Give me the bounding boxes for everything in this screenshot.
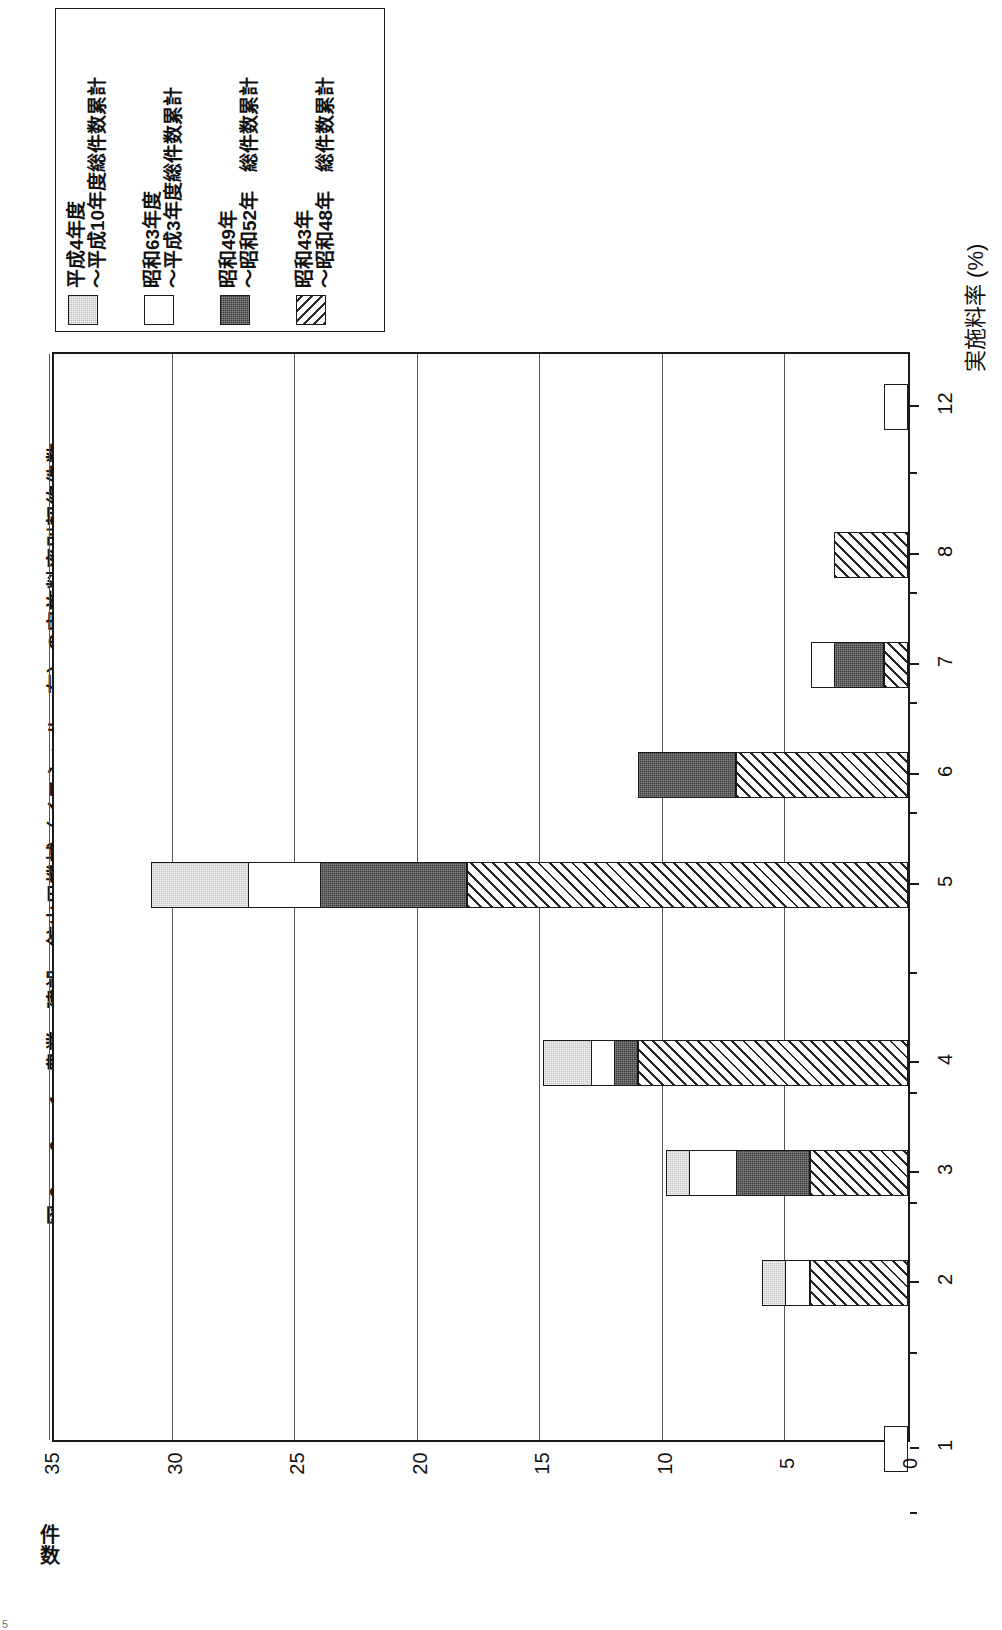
legend-item: 平成4年度 ～平成10年度総件数累計 xyxy=(66,23,140,325)
category-tick xyxy=(910,883,919,885)
category-minor-tick xyxy=(910,1512,917,1514)
bar-group-4 xyxy=(545,1040,908,1086)
value-axis-tick-label: 15 xyxy=(531,1443,554,1485)
value-axis-tick-label: 5 xyxy=(776,1443,799,1485)
plot-area xyxy=(52,352,910,1442)
bar-segment-white xyxy=(591,1040,616,1086)
hatch-swatch xyxy=(296,295,326,325)
bar-group-12 xyxy=(884,384,909,430)
bar-group-3 xyxy=(667,1150,908,1196)
bar-segment-dark xyxy=(834,642,883,688)
page-folio: 5 xyxy=(2,1618,8,1630)
bar-segment-gray xyxy=(151,862,249,908)
bar-group-6 xyxy=(640,752,908,798)
gridline xyxy=(49,354,50,1440)
bar-segment-gray xyxy=(543,1040,592,1086)
category-minor-tick xyxy=(910,1202,917,1204)
bar-segment-white xyxy=(884,384,909,430)
category-tick xyxy=(910,1061,919,1063)
category-axis-tick-label: 1 xyxy=(934,1429,957,1463)
legend-item-label: 平成4年度 ～平成10年度総件数累計 xyxy=(66,77,109,288)
chart-legend: 平成4年度 ～平成10年度総件数累計 昭和63年度 ～平成3年度総件数累計 昭和… xyxy=(55,8,385,332)
value-axis-tick-label: 20 xyxy=(408,1443,431,1485)
category-minor-tick xyxy=(910,1092,917,1094)
bar-segment-white xyxy=(248,862,322,908)
category-tick xyxy=(910,663,919,665)
category-axis-tick-label: 7 xyxy=(934,645,957,679)
x-axis-title: 実施料率 (%) xyxy=(957,244,989,372)
bar-segment-gray xyxy=(666,1150,691,1196)
y-axis-title: 件 数 xyxy=(40,1525,66,1567)
category-minor-tick xyxy=(910,472,917,474)
value-axis-tick-label: 35 xyxy=(41,1443,64,1485)
category-axis-tick-label: 5 xyxy=(934,865,957,899)
legend-item-label: 昭和49年 ～昭和52年 総件数累計 xyxy=(218,77,261,288)
bar-segment-hatch xyxy=(884,642,909,688)
legend-item-label: 昭和43年 ～昭和48年 総件数累計 xyxy=(294,77,337,288)
bar-segment-white xyxy=(689,1150,738,1196)
value-axis-tick-label: 30 xyxy=(163,1443,186,1485)
gray-swatch xyxy=(68,295,98,325)
value-axis-tick-label: 0 xyxy=(899,1443,922,1485)
legend-item: 昭和49年 ～昭和52年 総件数累計 xyxy=(218,23,292,325)
dark-swatch xyxy=(220,295,250,325)
category-minor-tick xyxy=(910,702,917,704)
category-tick xyxy=(910,1171,919,1173)
bar-segment-hatch xyxy=(810,1260,908,1306)
category-minor-tick xyxy=(910,1352,917,1354)
legend-entries: 平成4年度 ～平成10年度総件数累計 昭和63年度 ～平成3年度総件数累計 昭和… xyxy=(56,15,386,339)
bar-segment-hatch xyxy=(736,752,908,798)
bar-group-5 xyxy=(153,862,908,908)
bar-group-8 xyxy=(834,532,908,578)
category-tick xyxy=(910,1281,919,1283)
category-minor-tick xyxy=(910,592,917,594)
category-axis-tick-label: 6 xyxy=(934,755,957,789)
bar-segment-dark xyxy=(614,1040,639,1086)
bar-group-7 xyxy=(813,642,908,688)
bar-segment-dark xyxy=(320,862,467,908)
bar-segment-hatch xyxy=(638,1040,908,1086)
value-axis-tick-label: 25 xyxy=(286,1443,309,1485)
bar-segment-hatch xyxy=(834,532,908,578)
legend-item: 昭和43年 ～昭和48年 総件数累計 xyxy=(294,23,368,325)
bar-segment-white xyxy=(811,642,836,688)
category-axis-tick-label: 2 xyxy=(934,1263,957,1297)
bar-segment-gray xyxy=(762,1260,787,1306)
category-tick xyxy=(910,773,919,775)
value-axis-tick-label: 10 xyxy=(653,1443,676,1485)
category-axis-tick-label: 3 xyxy=(934,1153,957,1187)
bar-group-2 xyxy=(764,1260,908,1306)
bar-segment-hatch xyxy=(467,862,908,908)
category-tick xyxy=(910,405,919,407)
category-tick xyxy=(910,553,919,555)
bar-segment-hatch xyxy=(810,1150,908,1196)
white-swatch xyxy=(144,295,174,325)
category-axis-tick-label: 4 xyxy=(934,1043,957,1077)
bar-segment-dark xyxy=(638,752,736,798)
category-tick xyxy=(910,1447,919,1449)
category-axis-tick-label: 8 xyxy=(934,535,957,569)
bar-segment-dark xyxy=(736,1150,810,1196)
legend-item: 昭和63年度 ～平成3年度総件数累計 xyxy=(142,23,216,325)
legend-item-label: 昭和63年度 ～平成3年度総件数累計 xyxy=(142,87,185,288)
category-minor-tick xyxy=(910,972,917,974)
category-axis-tick-label: 12 xyxy=(934,387,957,421)
bar-segment-white xyxy=(785,1260,810,1306)
category-minor-tick xyxy=(910,812,917,814)
